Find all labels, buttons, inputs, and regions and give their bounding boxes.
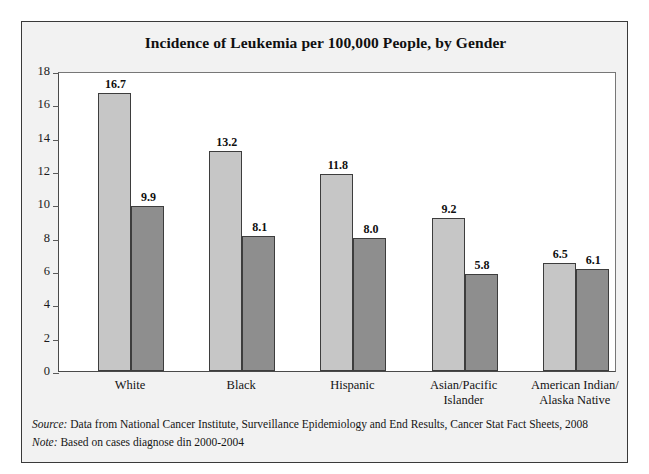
bar-value-label: 9.9: [123, 190, 174, 205]
footnote-note: Note: Based on cases diagnose din 2000-2…: [32, 436, 622, 448]
bar-group: 9.25.8: [432, 73, 498, 371]
bar-value-label: 6.1: [568, 253, 619, 268]
footnote-source-text: Data from National Cancer Institute, Sur…: [67, 418, 588, 430]
footnotes: Source: Data from National Cancer Instit…: [32, 418, 622, 454]
x-axis-label-line: American Indian/: [505, 378, 645, 393]
y-axis-tick-label: 16: [24, 97, 50, 112]
bar-women-2[interactable]: 8.0: [353, 238, 386, 371]
bar-group: 11.88.0: [320, 73, 386, 371]
y-axis-tick-mark-icon: [53, 373, 59, 374]
bar-group: 13.28.1: [209, 73, 275, 371]
y-axis-tick-label: 14: [24, 131, 50, 146]
y-axis-tick-label: 12: [24, 164, 50, 179]
bar-men-2[interactable]: 11.8: [320, 174, 353, 371]
bar-men-4[interactable]: 6.5: [543, 263, 576, 371]
bar-value-label: 8.0: [345, 222, 396, 237]
y-axis-tick-mark-icon: [53, 273, 59, 274]
y-axis-tick-label: 8: [24, 231, 50, 246]
y-axis-tick-label: 10: [24, 197, 50, 212]
bar-women-0[interactable]: 9.9: [131, 206, 164, 371]
bar-women-3[interactable]: 5.8: [465, 274, 498, 371]
bar-women-1[interactable]: 8.1: [242, 236, 275, 371]
y-axis-tick-mark-icon: [53, 240, 59, 241]
x-axis-label-line: Alaska Native: [505, 393, 645, 408]
y-axis-tick-label: 4: [24, 297, 50, 312]
y-axis-tick-mark-icon: [53, 73, 59, 74]
page-title: Incidence of Leukemia per 100,000 People…: [22, 34, 629, 52]
bar-men-0[interactable]: 16.7: [98, 93, 131, 371]
y-axis-tick-label: 2: [24, 331, 50, 346]
footnote-note-text: Based on cases diagnose din 2000-2004: [58, 436, 245, 448]
footnote-note-key: Note:: [32, 436, 58, 448]
x-axis-label-4: American Indian/Alaska Native: [505, 378, 645, 408]
bar-men-3[interactable]: 9.2: [432, 218, 465, 371]
y-axis-tick-label: 0: [24, 364, 50, 379]
y-axis-tick-mark-icon: [53, 106, 59, 107]
bar-value-label: 5.8: [457, 258, 508, 273]
bar-value-label: 13.2: [201, 135, 252, 150]
chart-frame: Incidence of Leukemia per 100,000 People…: [21, 21, 628, 463]
bar-men-1[interactable]: 13.2: [209, 151, 242, 371]
y-axis-tick-mark-icon: [53, 206, 59, 207]
bar-group: 16.79.9: [98, 73, 164, 371]
bar-value-label: 16.7: [90, 77, 141, 92]
bar-value-label: 11.8: [312, 158, 363, 173]
footnote-source-key: Source:: [32, 418, 67, 430]
y-axis-tick-mark-icon: [53, 306, 59, 307]
bar-group: 6.56.1: [543, 73, 609, 371]
bar-value-label: 8.1: [234, 220, 285, 235]
y-axis-tick-mark-icon: [53, 173, 59, 174]
bar-value-label: 9.2: [424, 202, 475, 217]
y-axis-tick-label: 6: [24, 264, 50, 279]
y-axis-tick-mark-icon: [53, 140, 59, 141]
plot-area: 024681012141618 16.79.913.28.111.88.09.2…: [58, 72, 616, 372]
y-axis-tick-label: 18: [24, 64, 50, 79]
y-axis-tick-mark-icon: [53, 340, 59, 341]
chart-page: Incidence of Leukemia per 100,000 People…: [0, 0, 649, 474]
bar-women-4[interactable]: 6.1: [576, 269, 609, 371]
footnote-source: Source: Data from National Cancer Instit…: [32, 418, 622, 430]
